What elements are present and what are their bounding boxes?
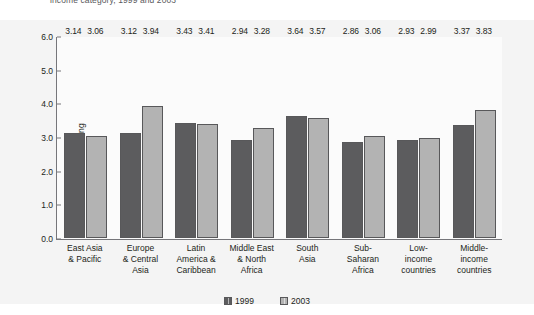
x-axis-category-line: & Pacific [68,254,101,264]
x-axis-category-line: Sub- [354,243,372,253]
bar-column: 3.64 [286,37,307,238]
bar-value-label: 3.43 [176,26,192,36]
bar-column: 3.28 [253,37,274,238]
bar-2003[interactable]: 3.57 [308,118,329,238]
bar-2003[interactable]: 3.06 [364,136,385,239]
y-tick-label: 3.0 [41,133,53,143]
bar-1999[interactable]: 3.14 [64,133,85,238]
bar-group: 2.932.99 [397,37,440,238]
x-axis-category-line: countries [457,265,492,275]
bar-column: 3.41 [197,37,218,238]
x-axis-category-line: Caribbean [176,265,215,275]
x-axis-category-label: Low-incomecountries [391,243,446,276]
y-tick-label: 4.0 [41,99,53,109]
x-axis-category-line: & Central [123,254,158,264]
x-axis-category-label: Middle East& NorthAfrica [224,243,279,276]
bar-column: 3.12 [120,37,141,238]
x-axis-category-line: countries [401,265,436,275]
x-axis-category-line: America & [176,254,215,264]
x-axis-category-label: East Asia& Pacific [57,243,112,265]
bar-column: 3.06 [86,37,107,238]
x-axis-category-line: Africa [352,265,374,275]
bar-column: 3.43 [175,37,196,238]
bar-value-label: 3.06 [365,26,381,36]
bar-2003[interactable]: 3.06 [86,136,107,239]
bar-1999[interactable]: 2.94 [231,140,252,238]
x-axis-category-line: Middle East [229,243,273,253]
legend-item-1999[interactable]: 1999 [224,296,254,306]
x-axis-category-label: Sub-SaharanAfrica [335,243,390,276]
x-axis-category-line: income [405,254,432,264]
bar-column: 2.99 [419,37,440,238]
bar-2003[interactable]: 3.83 [475,110,496,238]
bar-value-label: 2.86 [343,26,359,36]
bar-value-label: 3.41 [198,26,214,36]
bar-value-label: 3.28 [254,26,270,36]
x-axis-category-line: Africa [241,265,263,275]
y-tick-label: 1.0 [41,200,53,210]
figure-caption: income category, 1999 and 2003 [50,0,176,6]
legend-item-2003[interactable]: 2003 [280,296,310,306]
x-axis-category-line: Europe [127,243,154,253]
bar-1999[interactable]: 2.86 [342,142,363,238]
y-tick-label: 2.0 [41,167,53,177]
bar-value-label: 2.94 [232,26,248,36]
bar-2003[interactable]: 2.99 [419,138,440,238]
bar-1999[interactable]: 3.37 [453,125,474,238]
bar-column: 3.14 [64,37,85,238]
x-axis-category-line: & North [237,254,266,264]
series-swatch-2003-icon [280,297,288,305]
bar-1999[interactable]: 2.93 [397,140,418,238]
x-axis-category-line: East Asia [67,243,102,253]
figure-panel: Rating 0.01.02.03.04.05.06.0 3.143.063.1… [0,20,534,304]
bar-column: 3.94 [142,37,163,238]
x-axis-category-label: Europe& CentralAsia [113,243,168,276]
series-swatch-1999-icon [224,297,232,305]
x-axis-category-line: Saharan [347,254,379,264]
x-axis-category-line: South [296,243,318,253]
x-axis-category-line: Asia [299,254,316,264]
bar-2003[interactable]: 3.41 [197,124,218,238]
bar-value-label: 3.12 [121,26,137,36]
bar-group: 3.123.94 [120,37,163,238]
chart-legend: 19992003 [0,296,534,306]
bar-column: 3.83 [475,37,496,238]
bar-2003[interactable]: 3.28 [253,128,274,238]
x-axis-category-line: Asia [132,265,149,275]
bar-column: 2.93 [397,37,418,238]
y-tick-label: 0.0 [41,234,53,244]
bar-group: 3.373.83 [453,37,496,238]
bar-value-label: 2.99 [420,26,436,36]
y-tick-label: 5.0 [41,66,53,76]
bar-value-label: 3.57 [309,26,325,36]
x-axis-category-label: SouthAsia [280,243,335,265]
bar-column: 2.94 [231,37,252,238]
bar-value-label: 3.37 [454,26,470,36]
x-axis-category-labels: East Asia& PacificEurope& CentralAsiaLat… [57,243,502,276]
bar-2003[interactable]: 3.94 [142,106,163,238]
y-tick-mark [57,239,61,240]
bar-group: 3.433.41 [175,37,218,238]
bar-column: 3.06 [364,37,385,238]
bar-group: 2.943.28 [231,37,274,238]
x-axis-category-line: Middle- [460,243,488,253]
bar-1999[interactable]: 3.43 [175,123,196,238]
bar-value-label: 2.93 [398,26,414,36]
bar-value-label: 3.94 [143,26,159,36]
bar-group: 3.143.06 [64,37,107,238]
bar-series-container: 3.143.063.123.943.433.412.943.283.643.57… [58,37,502,238]
bar-group: 3.643.57 [286,37,329,238]
bar-1999[interactable]: 3.12 [120,133,141,238]
x-axis-category-label: Middle-incomecountries [447,243,502,276]
bar-1999[interactable]: 3.64 [286,116,307,238]
bar-column: 2.86 [342,37,363,238]
x-axis-category-line: income [460,254,487,264]
bar-column: 3.57 [308,37,329,238]
bar-value-label: 3.14 [65,26,81,36]
bar-column: 3.37 [453,37,474,238]
bar-value-label: 3.06 [87,26,103,36]
x-axis-category-line: Latin [187,243,205,253]
legend-label: 2003 [291,296,310,306]
x-axis-category-label: LatinAmerica &Caribbean [169,243,224,276]
legend-label: 1999 [235,296,254,306]
